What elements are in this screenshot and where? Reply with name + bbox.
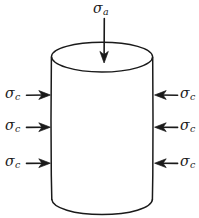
cylinder-drawing xyxy=(0,0,199,218)
confining-stress-label-right-2: σc xyxy=(180,118,195,134)
confining-stress-label-left-3: σc xyxy=(5,154,20,170)
confining-stress-subscript: c xyxy=(190,91,196,102)
confining-stress-symbol: σ xyxy=(5,153,15,169)
axial-stress-symbol: σ xyxy=(93,0,103,16)
cylinder-left-wall xyxy=(51,57,52,200)
confining-stress-subscript: c xyxy=(190,159,196,170)
arrow-down-icon xyxy=(100,19,108,64)
stress-diagram-figure: σa σc σc σc σc σc σc xyxy=(0,0,199,218)
confining-stress-label-left-2: σc xyxy=(5,118,20,134)
confining-stress-symbol: σ xyxy=(5,117,15,133)
axial-stress-label: σa xyxy=(93,1,109,17)
arrow-left-icon-3 xyxy=(155,159,178,168)
arrow-left-icon-2 xyxy=(155,123,178,132)
arrow-right-icon-3 xyxy=(27,159,51,168)
confining-stress-label-left-1: σc xyxy=(5,86,20,102)
confining-stress-label-right-1: σc xyxy=(180,86,195,102)
axial-stress-subscript: a xyxy=(103,6,109,17)
confining-stress-symbol: σ xyxy=(180,85,190,101)
cylinder-right-wall xyxy=(152,57,153,199)
confining-stress-subscript: c xyxy=(15,159,21,170)
cylinder-bottom-arc xyxy=(52,200,153,215)
confining-stress-subscript: c xyxy=(15,123,21,134)
confining-stress-label-right-3: σc xyxy=(180,154,195,170)
confining-stress-symbol: σ xyxy=(180,153,190,169)
arrow-right-icon-2 xyxy=(27,123,51,132)
confining-stress-subscript: c xyxy=(15,91,21,102)
arrow-left-icon-1 xyxy=(155,91,178,100)
confining-stress-subscript: c xyxy=(190,123,196,134)
arrow-right-icon-1 xyxy=(27,91,51,100)
confining-stress-symbol: σ xyxy=(180,117,190,133)
confining-stress-symbol: σ xyxy=(5,85,15,101)
